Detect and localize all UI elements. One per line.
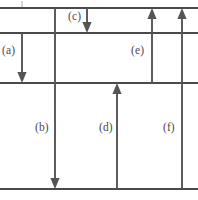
transition-label-4: (d) bbox=[99, 122, 113, 134]
transition-arrowhead-4 bbox=[147, 8, 156, 19]
transition-arrows-group bbox=[17, 8, 186, 189]
transition-arrowhead-0 bbox=[17, 72, 26, 83]
transition-label-3: (c) bbox=[68, 11, 81, 23]
energy-levels-group bbox=[0, 8, 198, 189]
transition-arrowhead-3 bbox=[112, 83, 121, 94]
diagram-canvas bbox=[0, 0, 198, 200]
energy-level-diagram: (a)(b)(c)(d)(e)(f) bbox=[0, 0, 198, 200]
transition-label-1: (a) bbox=[2, 45, 15, 57]
transition-label-5: (e) bbox=[131, 45, 144, 57]
transition-label-6: (f) bbox=[163, 122, 175, 134]
transition-label-2: (b) bbox=[35, 122, 49, 134]
transition-arrowhead-1 bbox=[50, 178, 59, 189]
transition-arrowhead-2 bbox=[82, 22, 91, 33]
transition-arrowhead-5 bbox=[177, 8, 186, 19]
